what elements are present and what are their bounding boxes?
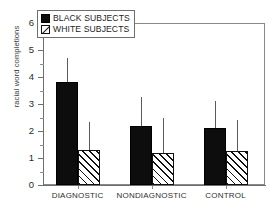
hatched-square-icon <box>41 25 50 34</box>
error-bar <box>237 120 238 151</box>
y-tick-label: 1 <box>18 153 34 163</box>
y-tick-minor <box>40 172 44 173</box>
x-tick <box>152 186 153 189</box>
error-bar <box>141 97 142 125</box>
y-tick-major <box>38 104 44 105</box>
bar <box>56 82 78 185</box>
legend-label: BLACK SUBJECTS <box>53 14 130 23</box>
bar-chart-figure: 0123456 racial word completions DIAGNOST… <box>0 0 276 210</box>
legend-item-black-subjects: BLACK SUBJECTS <box>41 13 130 24</box>
error-bar <box>67 58 68 82</box>
bar <box>204 128 226 185</box>
y-tick-major <box>38 158 44 159</box>
x-axis-line <box>43 185 266 186</box>
y-tick-label: 0 <box>18 180 34 190</box>
error-bar <box>215 101 216 128</box>
legend-item-white-subjects: WHITE SUBJECTS <box>41 24 130 35</box>
x-tick <box>226 186 227 189</box>
bar <box>226 151 248 185</box>
x-category-label: CONTROL <box>176 191 276 200</box>
bar <box>152 153 174 185</box>
legend: BLACK SUBJECTS WHITE SUBJECTS <box>37 10 135 38</box>
y-tick-minor <box>40 64 44 65</box>
legend-label: WHITE SUBJECTS <box>53 25 129 34</box>
y-tick-major <box>38 77 44 78</box>
y-tick-major <box>38 131 44 132</box>
filled-square-icon <box>41 14 50 23</box>
bar <box>130 126 152 185</box>
error-bar <box>89 122 90 150</box>
y-axis-title: racial word completions <box>12 7 21 127</box>
error-bar <box>163 118 164 153</box>
y-tick-minor <box>40 91 44 92</box>
y-tick-minor <box>40 145 44 146</box>
x-tick <box>78 186 79 189</box>
y-tick-major <box>38 50 44 51</box>
bar <box>78 150 100 185</box>
y-tick-minor <box>40 118 44 119</box>
y-tick-label: 2 <box>18 126 34 136</box>
